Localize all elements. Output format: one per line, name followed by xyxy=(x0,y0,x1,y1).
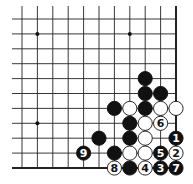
stone-circle xyxy=(154,86,168,100)
stone-circle xyxy=(123,101,137,115)
stone-circle xyxy=(123,131,137,145)
move-number: 1 xyxy=(172,132,180,145)
white-stone-move-2: 2 xyxy=(169,146,183,160)
white-stone-move-6: 6 xyxy=(154,116,168,130)
go-board: 619528437 xyxy=(0,0,193,184)
black-stone xyxy=(123,161,137,175)
white-stone xyxy=(123,146,137,160)
stone-circle xyxy=(138,72,152,86)
black-stone-move-5: 5 xyxy=(154,146,168,160)
white-stone xyxy=(138,131,152,145)
black-stone xyxy=(123,131,137,145)
move-number: 3 xyxy=(157,162,165,175)
stone-circle xyxy=(138,86,152,100)
star-point xyxy=(35,121,39,125)
move-number: 4 xyxy=(141,162,149,175)
move-number: 7 xyxy=(172,162,180,175)
white-stone xyxy=(169,101,183,115)
stone-circle xyxy=(123,146,137,160)
white-stone-move-8: 8 xyxy=(107,161,121,175)
black-stone xyxy=(107,101,121,115)
white-stone xyxy=(138,146,152,160)
black-stone xyxy=(138,86,152,100)
black-stone xyxy=(138,72,152,86)
black-stone-move-1: 1 xyxy=(169,131,183,145)
stone-circle xyxy=(123,161,137,175)
star-point xyxy=(128,32,132,36)
move-number: 9 xyxy=(80,147,88,160)
black-stone xyxy=(154,86,168,100)
white-stone-move-4: 4 xyxy=(138,161,152,175)
star-point xyxy=(35,32,39,36)
black-stone xyxy=(92,131,106,145)
stone-circle xyxy=(154,101,168,115)
black-stone-move-3: 3 xyxy=(154,161,168,175)
black-stone-move-7: 7 xyxy=(169,161,183,175)
stone-circle xyxy=(138,116,152,130)
move-number: 8 xyxy=(111,162,119,175)
move-number: 5 xyxy=(157,147,165,160)
stone-circle xyxy=(138,146,152,160)
stone-circle xyxy=(169,101,183,115)
stone-circle xyxy=(138,101,152,115)
black-stone-move-9: 9 xyxy=(77,146,91,160)
stone-circle xyxy=(107,101,121,115)
white-stone xyxy=(123,101,137,115)
stone-circle xyxy=(123,116,137,130)
black-stone xyxy=(138,101,152,115)
move-number: 6 xyxy=(157,117,165,130)
white-stone xyxy=(154,101,168,115)
black-stone xyxy=(107,146,121,160)
black-stone xyxy=(123,116,137,130)
stone-circle xyxy=(92,131,106,145)
move-number: 2 xyxy=(172,147,180,160)
stone-circle xyxy=(138,131,152,145)
stone-circle xyxy=(107,146,121,160)
white-stone xyxy=(138,116,152,130)
